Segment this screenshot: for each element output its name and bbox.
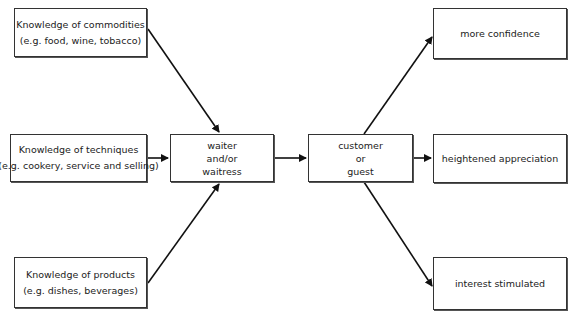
arrow-products-to-waiter [148, 184, 219, 283]
outcome-box-interest: interest stimulated [433, 257, 567, 310]
outcome-label: interest stimulated [455, 276, 545, 292]
input-box-techniques: Knowledge of techniques (e.g. cookery, s… [10, 134, 147, 182]
arrow-customer-to-confidence [364, 37, 432, 134]
input-title: Knowledge of techniques [19, 142, 139, 158]
server-line: waiter [207, 139, 237, 152]
arrow-commodities-to-waiter [148, 29, 219, 132]
server-line: waitress [202, 165, 241, 178]
outcome-box-appreciation: heightened appreciation [433, 134, 567, 183]
arrow-customer-to-interest [364, 182, 432, 286]
outcome-label: more confidence [460, 26, 540, 42]
outcome-label: heightened appreciation [442, 151, 558, 167]
customer-line: customer [338, 139, 383, 152]
input-subtitle: (e.g. dishes, beverages) [23, 283, 138, 299]
input-title: Knowledge of commodities [16, 17, 145, 33]
outcome-box-confidence: more confidence [433, 8, 567, 59]
customer-line: or [356, 152, 366, 165]
customer-line: guest [347, 165, 374, 178]
input-title: Knowledge of products [26, 267, 135, 283]
input-subtitle: (e.g. food, wine, tobacco) [20, 33, 141, 49]
input-box-products: Knowledge of products (e.g. dishes, beve… [14, 257, 147, 308]
customer-box: customer or guest [308, 134, 413, 182]
server-line: and/or [207, 152, 238, 165]
input-box-commodities: Knowledge of commodities (e.g. food, win… [14, 8, 147, 57]
input-subtitle: (e.g. cookery, service and selling) [0, 158, 159, 174]
server-box: waiter and/or waitress [170, 134, 274, 182]
